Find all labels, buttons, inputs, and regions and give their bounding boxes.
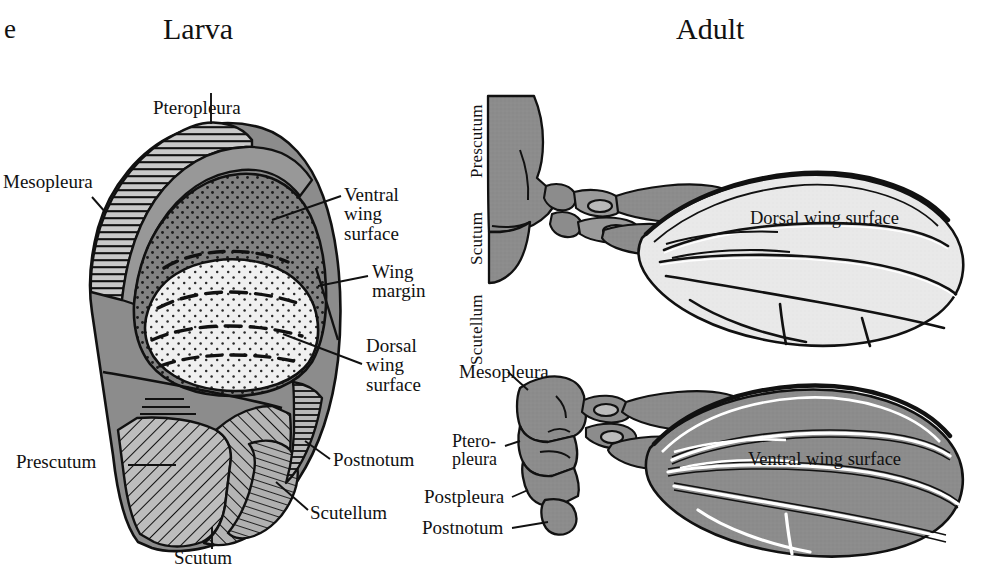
larva-label-mesopleura: Mesopleura — [3, 172, 93, 191]
adult-ventral-mesopleura — [517, 376, 586, 442]
diagram-artwork — [0, 0, 983, 570]
panel-letter: e — [4, 16, 16, 43]
larva-label-prescutum: Prescutum — [16, 452, 96, 471]
adult-dorsal-wing-surface-label: Dorsal wing surface — [750, 209, 899, 228]
adult-ventral-wing-surface-label: Ventral wing surface — [748, 450, 901, 469]
larva-label-pteropleura: Pteropleura — [153, 98, 241, 117]
larva-label-ventral-wing-surface: Ventral wing surface — [344, 185, 399, 243]
larva-label-wing-margin: Wing margin — [372, 262, 425, 301]
larva-title: Larva — [163, 14, 233, 44]
adult-label-postnotum: Postnotum — [422, 518, 503, 537]
larva-label-postnotum: Postnotum — [333, 450, 414, 469]
adult-title: Adult — [676, 14, 744, 44]
larva-label-scutum: Scutum — [174, 548, 232, 567]
adult-label-prescutum: Prescutum — [468, 104, 485, 178]
adult-dorsal-scutellum — [489, 222, 530, 283]
larva-label-dorsal-wing-surface: Dorsal wing surface — [366, 336, 421, 394]
adult-label-scutellum: Scutellum — [468, 294, 485, 365]
adult-label-pteropleura: Ptero- pleura — [452, 432, 497, 469]
adult-label-scutum: Scutum — [468, 212, 485, 265]
leader-adult-postnotum — [512, 522, 548, 528]
leader-mesopleura — [92, 197, 106, 213]
adult-ventral-postnotum — [541, 499, 576, 534]
figure-panel-e: e Larva Adult Pteropleura Mesopleura Ven… — [0, 0, 983, 570]
leader-adult-postpleura — [512, 490, 528, 497]
adult-label-mesopleura: Mesopleura — [459, 362, 549, 381]
larva-diagram — [90, 93, 368, 551]
adult-dorsal-thorax — [488, 96, 557, 232]
larva-label-scutellum: Scutellum — [310, 503, 387, 522]
adult-label-postpleura: Postpleura — [424, 487, 504, 506]
